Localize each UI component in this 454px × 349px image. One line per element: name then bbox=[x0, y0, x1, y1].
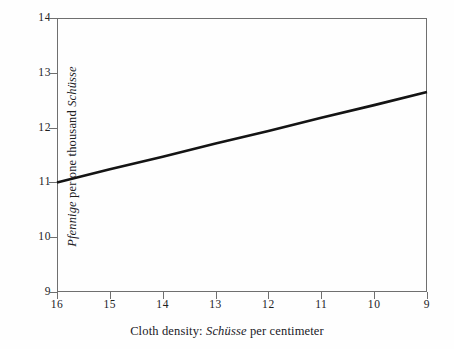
x-axis-tick-label: 13 bbox=[196, 299, 236, 311]
x-axis-tick-mark bbox=[163, 292, 164, 299]
x-axis-tick-mark bbox=[216, 292, 217, 299]
x-axis-tick-mark bbox=[110, 292, 111, 299]
y-axis-title-wrapper: Pfennige per one thousand Schüsse bbox=[22, 10, 23, 290]
x-axis-tick-label: 11 bbox=[301, 299, 341, 311]
axis-title-text: Cloth density: bbox=[130, 324, 206, 338]
x-axis-tick-mark bbox=[321, 292, 322, 299]
x-axis-title: Cloth density: Schüsse per centimeter bbox=[0, 324, 454, 339]
y-axis-tick-mark bbox=[49, 128, 57, 129]
y-axis-tick-mark bbox=[49, 182, 57, 183]
axis-title-italic-term: Schüsse bbox=[65, 66, 79, 107]
x-axis-tick-label: 15 bbox=[90, 299, 130, 311]
x-axis-tick-mark bbox=[427, 292, 428, 299]
y-axis-tick-label: 9 bbox=[25, 286, 51, 298]
y-axis-tick-mark bbox=[49, 237, 57, 238]
y-axis-tick-mark bbox=[49, 292, 57, 293]
chart-figure: 14131211109 161514131211109 Cloth densit… bbox=[0, 0, 454, 349]
x-axis-tick-mark bbox=[57, 292, 58, 299]
y-axis-tick-mark bbox=[49, 18, 57, 19]
data-series-line bbox=[57, 92, 427, 182]
x-axis-tick-mark bbox=[374, 292, 375, 299]
y-axis-tick-label: 13 bbox=[25, 67, 51, 79]
y-axis-tick-mark bbox=[49, 73, 57, 74]
axis-title-text: per one thousand bbox=[65, 107, 79, 201]
y-axis-tick-label: 10 bbox=[25, 231, 51, 243]
x-axis-tick-label: 9 bbox=[407, 299, 447, 311]
x-axis-tick-mark bbox=[268, 292, 269, 299]
x-axis-tick-label: 14 bbox=[143, 299, 183, 311]
y-axis-title: Pfennige per one thousand Schüsse bbox=[65, 7, 80, 307]
axis-title-text: per centimeter bbox=[247, 324, 324, 338]
axis-title-italic-term: Pfennige bbox=[65, 201, 79, 247]
axis-title-italic-term: Schüsse bbox=[206, 324, 247, 338]
x-axis-tick-label: 12 bbox=[248, 299, 288, 311]
y-axis-tick-label: 11 bbox=[25, 176, 51, 188]
y-axis-tick-label: 14 bbox=[25, 12, 51, 24]
y-axis-tick-label: 12 bbox=[25, 122, 51, 134]
data-layer bbox=[57, 18, 427, 292]
x-axis-tick-label: 10 bbox=[354, 299, 394, 311]
